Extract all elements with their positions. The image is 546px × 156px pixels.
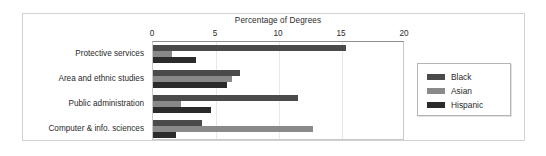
x-tick-label: 0 — [150, 29, 155, 38]
bar-group — [153, 42, 403, 67]
legend-item[interactable]: Asian — [427, 84, 472, 97]
chart-figure: Percentage of Degrees 05101520 Protectiv… — [0, 0, 546, 156]
bar — [153, 45, 346, 51]
bar — [153, 107, 211, 113]
x-tick-label: 10 — [273, 29, 282, 38]
legend-item[interactable]: Hispanic — [427, 98, 483, 111]
chart-title: Percentage of Degrees — [152, 16, 404, 25]
x-tick-label: 20 — [399, 29, 408, 38]
x-tick-label: 15 — [336, 29, 345, 38]
bar-group — [153, 116, 403, 141]
x-tick-label: 5 — [213, 29, 218, 38]
bar — [153, 57, 196, 63]
bar — [153, 126, 313, 132]
bar-group — [153, 92, 403, 117]
bar — [153, 82, 227, 88]
category-label: Computer & info. sciences — [48, 123, 144, 132]
legend-swatch-icon — [427, 74, 445, 80]
category-label: Public administration — [68, 98, 144, 107]
legend-label: Asian — [451, 86, 472, 96]
legend-label: Hispanic — [451, 100, 483, 110]
x-axis-tick-labels: 05101520 — [152, 29, 404, 40]
legend-swatch-icon — [427, 88, 445, 94]
legend-swatch-icon — [427, 102, 445, 108]
bar — [153, 132, 176, 138]
legend-item[interactable]: Black — [427, 70, 471, 83]
category-label: Area and ethnic studies — [58, 74, 144, 83]
bar-group — [153, 67, 403, 92]
legend-label: Black — [451, 72, 471, 82]
category-axis-labels: Protective servicesArea and ethnic studi… — [26, 41, 148, 140]
chart-legend: BlackAsianHispanic — [417, 63, 511, 116]
category-label: Protective services — [75, 49, 144, 58]
plot-area — [152, 41, 404, 140]
bars-layer — [153, 42, 403, 139]
